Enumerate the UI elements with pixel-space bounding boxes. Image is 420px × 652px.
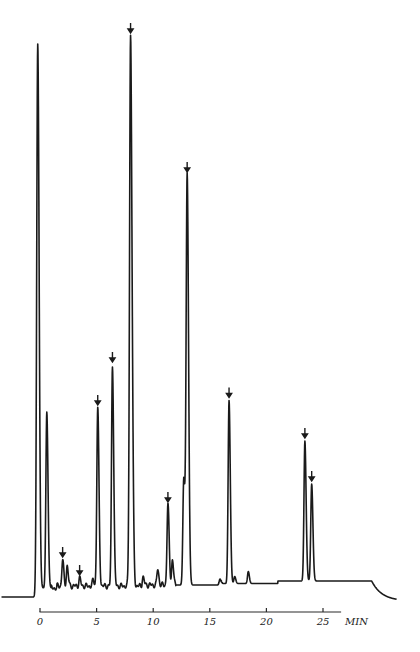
peak-apex-7	[112, 365, 113, 366]
peak-arrow-icon	[302, 428, 307, 438]
chromatogram-chart: 0510152025 MIN	[0, 0, 420, 652]
peak-arrow-icon	[165, 492, 170, 502]
peak-arrow-icon	[128, 23, 133, 33]
trace-layer	[2, 35, 397, 599]
x-ticks: 0510152025	[37, 608, 330, 627]
peak-apex-9	[132, 540, 133, 541]
peak-arrow-icon	[77, 565, 82, 575]
x-tick-label: 20	[259, 616, 273, 627]
peak-arrow-icon	[60, 547, 65, 557]
x-tick-label: 10	[147, 616, 160, 627]
x-tick-label: 25	[316, 616, 330, 627]
chromatogram-trace	[2, 35, 397, 599]
peak-arrow-icon	[110, 352, 115, 362]
x-tick-label: 5	[93, 616, 99, 627]
peak-arrow-icon	[226, 388, 231, 398]
x-tick-label: 0	[37, 616, 44, 627]
peak-marker-layer	[60, 23, 314, 575]
peak-arrow-icon	[185, 162, 190, 172]
x-axis-unit-label: MIN	[344, 616, 369, 627]
peak-arrow-icon	[95, 395, 100, 405]
peak-arrow-icon	[309, 471, 314, 481]
x-tick-label: 15	[203, 616, 216, 627]
